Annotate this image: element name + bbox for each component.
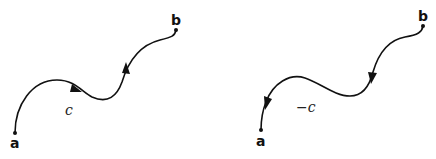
point-b: [421, 24, 425, 28]
label-a: a: [256, 133, 265, 149]
diagram-svg: a b c b a −c: [0, 0, 436, 159]
point-b: [174, 28, 178, 32]
diagram-canvas: a b c b a −c: [0, 0, 436, 159]
label-curve-neg-c: −c: [296, 99, 316, 115]
arrow-icon: [264, 96, 272, 110]
point-a: [259, 128, 263, 132]
label-a: a: [10, 135, 19, 151]
curve-neg-c: [261, 26, 423, 130]
label-curve-c: c: [65, 102, 73, 118]
label-b: b: [171, 12, 181, 28]
curve-c: [15, 30, 176, 133]
label-b: b: [418, 8, 428, 24]
path-neg-c-diagram: b a −c: [256, 8, 428, 149]
path-c-diagram: a b c: [10, 12, 181, 151]
